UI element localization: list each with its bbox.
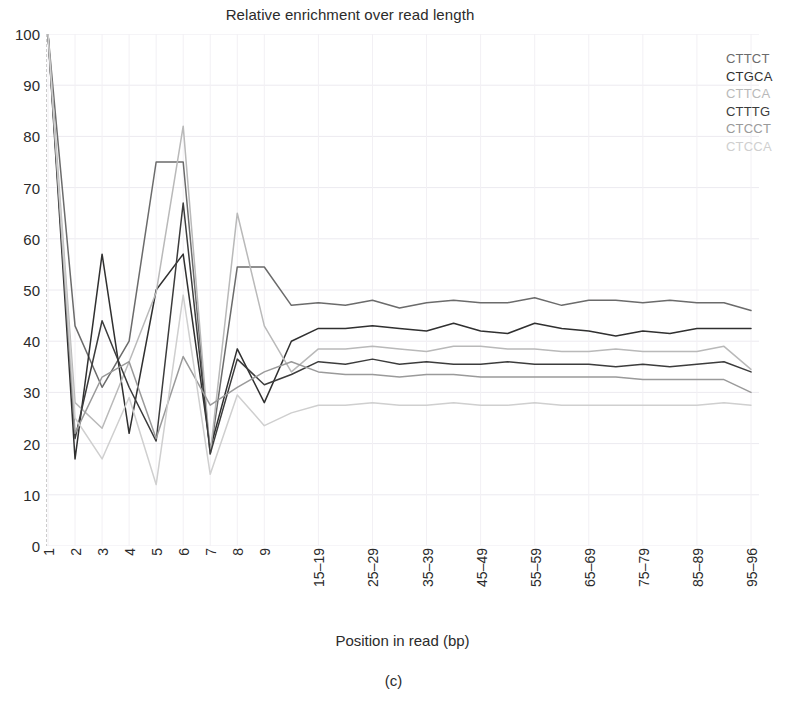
x-axis-tick-label: 7 (203, 548, 219, 556)
x-axis-title: Position in read (bp) (46, 632, 759, 649)
y-axis-tick-label: 10 (23, 486, 40, 503)
y-axis: 0102030405060708090100 (0, 34, 40, 546)
x-axis: 12345678915–1925–2935–3945–4955–5965–697… (46, 548, 759, 628)
x-axis-tick-label: 5 (149, 548, 165, 556)
legend-item-cttct: CTTCT (726, 50, 786, 68)
y-axis-tick-label: 20 (23, 435, 40, 452)
series-line (48, 34, 751, 485)
x-axis-tick-label: 75–79 (636, 548, 652, 587)
subfigure-caption: (c) (0, 672, 787, 689)
y-axis-tick-label: 80 (23, 128, 40, 145)
legend: CTTCTCTGCACTTCACTTTGCTCCTCTCCA (726, 50, 786, 155)
plot-area (46, 34, 759, 546)
y-axis-tick-label: 100 (15, 26, 40, 43)
x-axis-tick-label: 9 (257, 548, 273, 556)
legend-item-ctcct: CTCCT (726, 120, 786, 138)
figure-panel: Relative enrichment over read length 010… (0, 0, 787, 711)
x-axis-tick-label: 65–69 (582, 548, 598, 587)
y-axis-tick-label: 60 (23, 230, 40, 247)
x-axis-tick-label: 15–19 (311, 548, 327, 587)
x-axis-tick-label: 25–29 (365, 548, 381, 587)
x-axis-tick-label: 6 (176, 548, 192, 556)
x-axis-tick-label: 45–49 (474, 548, 490, 587)
y-axis-tick-label: 0 (32, 538, 40, 555)
y-axis-tick-label: 70 (23, 179, 40, 196)
y-axis-tick-label: 30 (23, 384, 40, 401)
x-axis-tick-label: 1 (41, 548, 57, 556)
x-axis-tick-label: 55–59 (528, 548, 544, 587)
x-axis-tick-label: 95–96 (744, 548, 760, 587)
series-line (48, 34, 751, 438)
legend-item-ctttg: CTTTG (726, 103, 786, 121)
y-axis-tick-label: 90 (23, 77, 40, 94)
chart-title: Relative enrichment over read length (0, 6, 700, 23)
y-axis-tick-label: 50 (23, 282, 40, 299)
series-line (48, 34, 751, 454)
chart-canvas (46, 34, 759, 546)
x-axis-tick-label: 85–89 (690, 548, 706, 587)
series-line (48, 34, 751, 454)
legend-item-ctgca: CTGCA (726, 68, 786, 86)
x-axis-tick-label: 3 (95, 548, 111, 556)
y-axis-tick-label: 40 (23, 333, 40, 350)
x-axis-tick-label: 8 (230, 548, 246, 556)
legend-item-cttca: CTTCA (726, 85, 786, 103)
x-axis-tick-label: 2 (68, 548, 84, 556)
legend-item-ctcca: CTCCA (726, 138, 786, 156)
series-line (48, 34, 751, 459)
series-line (48, 34, 751, 454)
x-axis-tick-label: 35–39 (420, 548, 436, 587)
x-axis-tick-label: 4 (122, 548, 138, 556)
